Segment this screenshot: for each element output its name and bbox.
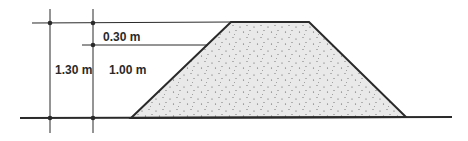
crest-height-label: 0.30 m: [103, 30, 140, 44]
top-dimension-line: [32, 22, 231, 23]
dimension-dot: [48, 21, 53, 26]
dimension-dot: [91, 43, 96, 48]
dimension-dot: [91, 116, 96, 121]
dimension-dot: [48, 116, 53, 121]
ground-line: [20, 117, 452, 118]
embankment-body: [131, 22, 406, 118]
total-height-label: 1.30 m: [55, 63, 92, 77]
dimension-dot: [91, 21, 96, 26]
body-height-label: 1.00 m: [109, 63, 146, 77]
embankment-diagram: 0.30 m 1.30 m 1.00 m: [0, 0, 468, 141]
